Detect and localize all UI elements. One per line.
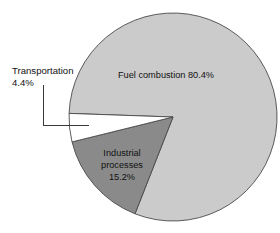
- pie-label-transportation-line2: 4.4%: [12, 77, 34, 88]
- pie-label-transportation-line1: Transportation: [12, 65, 74, 76]
- pie-label-industrial-processes-line3: 15.2%: [109, 172, 135, 182]
- pie-label-fuel-combustion: Fuel combustion 80.4%: [118, 70, 214, 80]
- pie-label-industrial-processes-line1: Industrial: [103, 148, 140, 158]
- pie-label-industrial-processes-line2: processes: [101, 160, 143, 170]
- pie-chart-svg: Fuel combustion 80.4% Industrial process…: [0, 0, 280, 233]
- pie-chart-figure: Fuel combustion 80.4% Industrial process…: [0, 0, 280, 233]
